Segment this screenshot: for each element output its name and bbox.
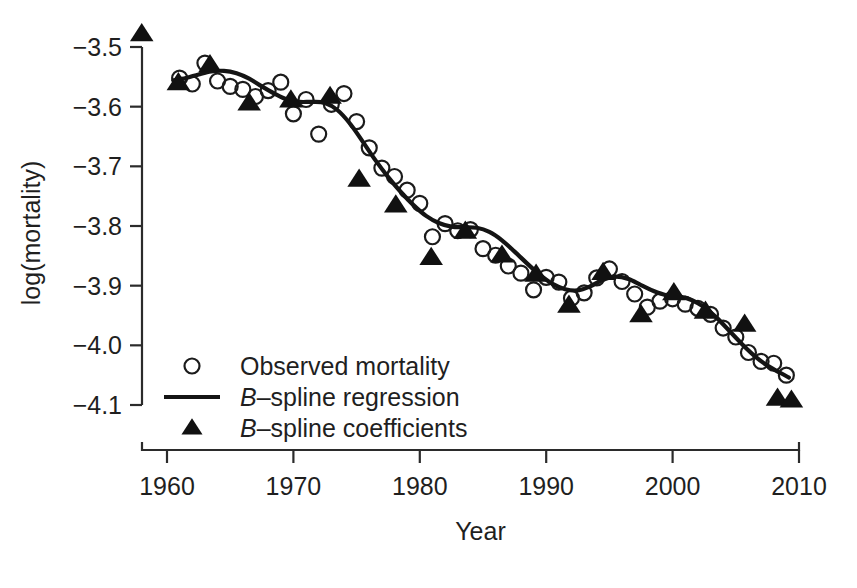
legend-item-label: B–spline coefficients [240,414,467,442]
bspline-coefficient-point [733,314,757,332]
legend-open-circle-icon [185,359,200,374]
legend-item: Observed mortality [185,352,451,380]
y-axis-tick-label: −4.0 [73,331,122,359]
observed-mortality-point [273,75,288,90]
x-axis-line [142,442,799,450]
y-axis-tick-label: −4.1 [73,391,122,419]
y-axis-tick-label: −3.7 [73,152,122,180]
observed-mortality-points [172,56,794,383]
x-axis-tick-label: 1960 [139,472,195,500]
chart-legend: Observed mortalityB–spline regressionB–s… [164,352,467,442]
y-axis-tick-label: −3.8 [73,212,122,240]
bspline-coefficient-point [347,169,371,187]
x-axis-tick-label: 2000 [645,472,701,500]
legend-triangle-icon [181,418,202,434]
bspline-coefficient-point [629,304,653,322]
y-axis-tick-label: −3.6 [73,93,122,121]
observed-mortality-point [286,106,301,121]
bspline-coefficient-point [130,23,154,41]
bspline-regression-line [173,71,789,378]
y-axis-tick-label: −3.5 [73,33,122,61]
observed-mortality-point [336,86,351,101]
legend-item: B–spline regression [164,383,460,411]
observed-mortality-point [311,127,326,142]
observed-mortality-point [627,287,642,302]
x-axis-title: Year [455,517,506,545]
y-axis-tick-label: −3.9 [73,272,122,300]
observed-mortality-point [513,266,528,281]
bspline-coefficient-points [130,23,803,408]
x-axis-tick-label: 2010 [771,472,827,500]
data-series-group [130,23,803,408]
y-axis-title: log(mortality) [17,161,45,305]
x-axis-tick-label: 1980 [392,472,448,500]
x-axis-tick-label: 1990 [518,472,574,500]
legend-item-label: B–spline regression [240,383,460,411]
bspline-coefficient-point [419,247,443,265]
observed-mortality-point [425,229,440,244]
legend-item-label: Observed mortality [240,352,450,380]
legend-item: B–spline coefficients [181,414,467,442]
mortality-bspline-figure: −3.5−3.6−3.7−3.8−3.9−4.0−4.1196019701980… [0,0,857,588]
chart-canvas: −3.5−3.6−3.7−3.8−3.9−4.0−4.1196019701980… [0,0,857,588]
bspline-coefficient-point [662,282,686,300]
bspline-coefficient-point [237,92,261,110]
x-axis-tick-label: 1970 [266,472,322,500]
observed-mortality-point [526,282,541,297]
